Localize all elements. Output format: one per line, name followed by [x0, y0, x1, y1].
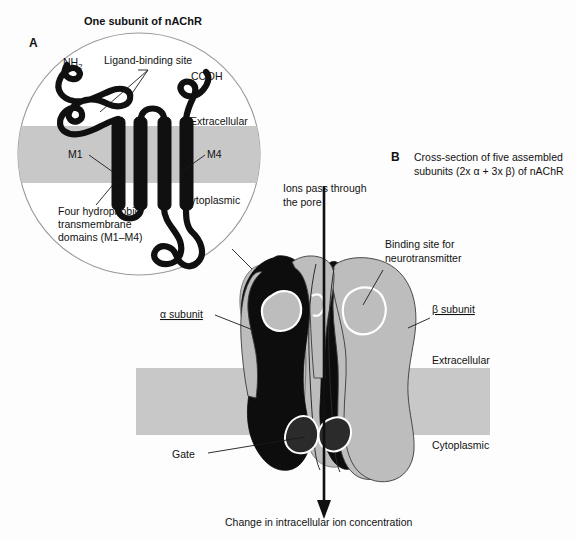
panel-b-title-line1: Cross-section of five assembled	[414, 151, 563, 163]
binding-site-label-line1: Binding site for	[385, 238, 455, 250]
helix-m2	[134, 117, 147, 210]
helix-m3	[158, 117, 171, 210]
cooh-label: COOH	[191, 70, 223, 82]
panel-b-cytoplasmic-label: Cytoplasmic	[432, 439, 489, 451]
panel-a-title: One subunit of nAChR	[84, 15, 202, 27]
helix-m1	[112, 117, 125, 210]
panel-b-title-line2: subunits (2x α + 3x β) of nAChR	[414, 165, 564, 177]
tm-domains-label-line3: domains (M1–M4)	[58, 231, 143, 243]
panel-a-cytoplasmic-label: Cytoplasmic	[183, 194, 240, 206]
tm-domains-label-line2: transmembrane	[58, 218, 132, 230]
ions-pass-label-line1: Ions pass through	[283, 182, 367, 194]
figure-root: One subunit of nAChR A	[0, 0, 576, 539]
m4-label: M4	[207, 148, 222, 160]
ions-pass-label-line2: the pore	[283, 196, 322, 208]
panel-b-extracellular-label: Extracellular	[432, 354, 490, 366]
tm-domains-label-line1: Four hydrophobic	[58, 205, 140, 217]
m1-label: M1	[68, 148, 83, 160]
panel-a-group: One subunit of nAChR A	[10, 15, 272, 285]
beta-subunit-label: β subunit	[432, 303, 475, 315]
binding-site-label-line2: neurotransmitter	[385, 252, 462, 264]
diagram-canvas: One subunit of nAChR A	[0, 0, 576, 539]
panel-b-letter: B	[391, 150, 400, 164]
ligand-binding-site-label: Ligand-binding site	[104, 54, 192, 66]
panel-a-extracellular-label: Extracellular	[190, 115, 248, 127]
alpha-subunit-label: α subunit	[160, 308, 203, 320]
panel-a-letter: A	[29, 36, 38, 50]
binding-pocket-alpha-left	[262, 291, 301, 331]
bottom-caption: Change in intracellular ion concentratio…	[225, 516, 413, 528]
gate-label: Gate	[172, 448, 195, 460]
